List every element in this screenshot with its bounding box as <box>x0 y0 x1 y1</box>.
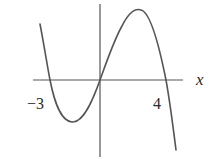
x-axis-label: x <box>196 72 204 88</box>
plot-area <box>0 0 216 159</box>
tick-label-4: 4 <box>153 96 161 112</box>
cubic-function-graph: −3 4 x <box>0 0 216 159</box>
tick-label-neg3: −3 <box>27 96 44 112</box>
